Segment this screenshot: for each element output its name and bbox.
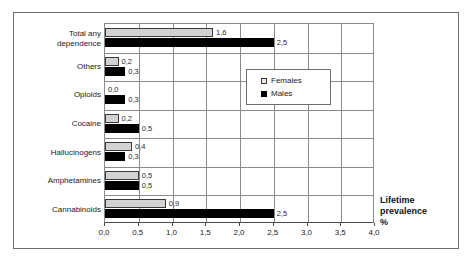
bar-value-label: 0,5 (142, 181, 152, 190)
x-axis-tick-label: 4,0 (368, 228, 379, 237)
bar-female[interactable] (105, 57, 119, 66)
x-axis-tick-label: 2,5 (267, 228, 278, 237)
category-label: Total anydependence (15, 29, 101, 48)
chart-category-row: Cocaine0,20,5 (105, 110, 373, 139)
axis-title: Lifetime prevalence % (380, 195, 458, 228)
category-label: Opioids (15, 91, 101, 101)
chart-category-row: Hallucinogens0,40,3 (105, 138, 373, 167)
bar-male[interactable] (105, 181, 139, 190)
x-axis-tick-label: 3,5 (335, 228, 346, 237)
category-label: Cocaine (15, 119, 101, 129)
bar-male[interactable] (105, 95, 125, 104)
bar-male[interactable] (105, 38, 274, 47)
axis-title-line1: Lifetime (380, 195, 458, 206)
category-label-line: dependence (15, 38, 101, 48)
x-axis-tick-mark (239, 223, 240, 226)
bar-value-label: 0,5 (142, 124, 152, 133)
bar-male[interactable] (105, 209, 274, 218)
category-label-line: Cannabinoids (15, 205, 101, 215)
axis-title-line3: % (380, 217, 458, 228)
bar-female[interactable] (105, 28, 213, 37)
legend-swatch-females-icon (261, 78, 267, 84)
x-axis-tick-mark (172, 223, 173, 226)
x-axis-tick-mark (104, 223, 105, 226)
bar-value-label: 0,9 (169, 199, 179, 208)
bar-female[interactable] (105, 199, 166, 208)
chart-category-row: Amphetamines0,50,5 (105, 167, 373, 196)
legend-swatch-males-icon (261, 91, 267, 97)
x-axis-tick-mark (273, 223, 274, 226)
category-label-line: Others (15, 62, 101, 72)
chart-category-row: Cannabinoids0,92,5 (105, 195, 373, 224)
legend-label-males: Males (271, 89, 292, 98)
legend-label-females: Females (271, 76, 302, 85)
bar-male[interactable] (105, 124, 139, 133)
category-label-line: Total any (15, 29, 101, 39)
chart-frame: Total anydependence1,62,5Others0,20,3Opi… (13, 12, 459, 249)
bar-value-label: 1,6 (216, 28, 226, 37)
bar-value-label: 2,5 (277, 209, 287, 218)
bar-value-label: 0,2 (122, 114, 132, 123)
chart-legend: Females Males (246, 69, 331, 105)
x-axis-tick-label: 0,5 (132, 228, 143, 237)
category-label-line: Amphetamines (15, 176, 101, 186)
x-axis-tick-mark (138, 223, 139, 226)
bar-value-label: 2,5 (277, 38, 287, 47)
category-label-line: Hallucinogens (15, 148, 101, 158)
x-axis-tick-mark (307, 223, 308, 226)
bar-value-label: 0,2 (122, 57, 132, 66)
chart-category-row: Others0,20,3 (105, 53, 373, 82)
plot-area: Total anydependence1,62,5Others0,20,3Opi… (104, 23, 374, 223)
x-axis-tick-label: 2,0 (233, 228, 244, 237)
x-axis-tick-mark (340, 223, 341, 226)
bar-male[interactable] (105, 152, 125, 161)
bar-value-label: 0,3 (128, 67, 138, 76)
axis-title-line2: prevalence (380, 206, 458, 217)
bar-value-label: 0,3 (128, 95, 138, 104)
category-label: Hallucinogens (15, 148, 101, 158)
x-axis-tick-label: 0,0 (98, 228, 109, 237)
category-label: Cannabinoids (15, 205, 101, 215)
bar-value-label: 0,4 (135, 142, 145, 151)
bar-value-label: 0,3 (128, 152, 138, 161)
category-label-line: Cocaine (15, 119, 101, 129)
x-axis-tick-label: 1,5 (200, 228, 211, 237)
category-label: Others (15, 62, 101, 72)
bar-value-label: 0,5 (142, 171, 152, 180)
x-axis-tick-mark (374, 223, 375, 226)
x-axis-tick-label: 1,0 (166, 228, 177, 237)
chart-category-row: Total anydependence1,62,5 (105, 24, 373, 53)
bar-value-label: 0,0 (108, 85, 118, 94)
category-label-line: Opioids (15, 91, 101, 101)
x-axis-tick-label: 3,0 (301, 228, 312, 237)
x-axis: 0,00,51,01,52,02,53,03,54,0 (104, 223, 374, 245)
category-label: Amphetamines (15, 176, 101, 186)
chart-category-row: Opioids0,00,3 (105, 81, 373, 110)
bar-male[interactable] (105, 67, 125, 76)
bar-female[interactable] (105, 171, 139, 180)
bar-female[interactable] (105, 114, 119, 123)
x-axis-tick-mark (205, 223, 206, 226)
legend-item-males: Males (261, 87, 330, 100)
legend-item-females: Females (261, 74, 330, 87)
bar-female[interactable] (105, 142, 132, 151)
